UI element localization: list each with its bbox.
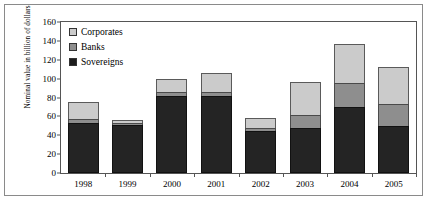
x-axis-tick-mark <box>239 173 240 177</box>
y-axis-tick-mark <box>57 135 61 136</box>
y-axis-tick-mark <box>57 40 61 41</box>
x-axis-tick-mark <box>105 173 106 177</box>
x-axis-tick-mark <box>150 173 151 177</box>
x-axis-tick-mark <box>194 173 195 177</box>
bar-segment-sovereigns-1998[interactable] <box>68 123 99 173</box>
legend-item-banks[interactable]: Banks <box>69 41 123 53</box>
legend-swatch-banks-icon <box>69 43 77 51</box>
bar-segment-sovereigns-2000[interactable] <box>156 96 187 173</box>
x-axis-tick-label-2002: 2002 <box>252 179 270 189</box>
y-axis-tick-mark <box>57 173 61 174</box>
y-axis-tick-mark <box>57 78 61 79</box>
legend-swatch-corporates-icon <box>69 28 77 36</box>
figure-border: Nominal value in billion of dollars 1601… <box>4 4 423 196</box>
legend-label: Sovereigns <box>81 57 123 67</box>
y-axis-tick-mark <box>57 116 61 117</box>
bar-segment-corporates-2004[interactable] <box>334 44 365 84</box>
bar-2004[interactable] <box>334 44 365 173</box>
y-axis-tick-mark <box>57 154 61 155</box>
bar-2001[interactable] <box>201 73 232 173</box>
bar-segment-sovereigns-2005[interactable] <box>378 126 409 173</box>
x-axis-tick-mark <box>327 173 328 177</box>
bar-segment-banks-2005[interactable] <box>378 104 409 126</box>
bar-segment-sovereigns-1999[interactable] <box>112 125 143 173</box>
legend-label: Banks <box>81 42 105 52</box>
x-axis-tick-label-1999: 1999 <box>119 179 137 189</box>
x-axis-tick-label-2005: 2005 <box>385 179 403 189</box>
bar-segment-sovereigns-2002[interactable] <box>245 131 276 173</box>
bar-segment-corporates-2001[interactable] <box>201 73 232 92</box>
bar-1999[interactable] <box>112 120 143 173</box>
bar-segment-corporates-1998[interactable] <box>68 102 99 119</box>
bar-1998[interactable] <box>68 102 99 173</box>
bar-segment-sovereigns-2001[interactable] <box>201 96 232 173</box>
y-axis-tick-mark <box>57 97 61 98</box>
x-axis-tick-label-2000: 2000 <box>163 179 181 189</box>
legend-label: Corporates <box>81 27 123 37</box>
bar-2000[interactable] <box>156 79 187 173</box>
legend: CorporatesBanksSovereigns <box>69 26 123 68</box>
legend-swatch-sovereigns-icon <box>69 58 77 66</box>
bar-2005[interactable] <box>378 67 409 173</box>
x-axis-tick-label-2003: 2003 <box>296 179 314 189</box>
bar-segment-sovereigns-2004[interactable] <box>334 107 365 173</box>
x-axis-tick-mark <box>283 173 284 177</box>
bar-2003[interactable] <box>290 82 321 173</box>
x-axis-tick-mark <box>416 173 417 177</box>
y-axis-title: Nominal value in billion of dollars <box>24 0 32 127</box>
y-axis-tick-mark <box>57 22 61 23</box>
plot-area: 1601401201008060402001998199920002001200… <box>60 21 417 174</box>
bar-segment-corporates-2005[interactable] <box>378 67 409 104</box>
legend-item-sovereigns[interactable]: Sovereigns <box>69 56 123 68</box>
figure: Nominal value in billion of dollars 1601… <box>0 0 427 200</box>
bar-segment-sovereigns-2003[interactable] <box>290 128 321 173</box>
y-axis-tick-mark <box>57 59 61 60</box>
x-axis-tick-mark <box>372 173 373 177</box>
bar-2002[interactable] <box>245 118 276 173</box>
bar-segment-banks-2003[interactable] <box>290 115 321 128</box>
bar-segment-corporates-2000[interactable] <box>156 79 187 92</box>
bar-segment-banks-2004[interactable] <box>334 83 365 107</box>
bar-segment-corporates-2003[interactable] <box>290 82 321 114</box>
x-axis-tick-label-2001: 2001 <box>207 179 225 189</box>
legend-item-corporates[interactable]: Corporates <box>69 26 123 38</box>
x-axis-tick-label-1998: 1998 <box>74 179 92 189</box>
bar-segment-corporates-2002[interactable] <box>245 118 276 127</box>
x-axis-tick-label-2004: 2004 <box>340 179 358 189</box>
